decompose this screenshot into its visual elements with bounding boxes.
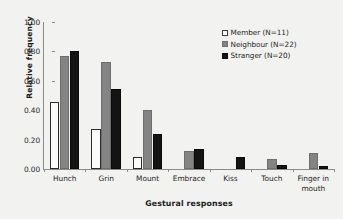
x-axis-tick-mark bbox=[293, 169, 294, 172]
bar-stranger bbox=[277, 165, 287, 169]
bar-neighbour bbox=[184, 151, 194, 169]
legend-label: Member (N=11) bbox=[231, 28, 289, 37]
legend-item: Member (N=11) bbox=[222, 27, 322, 38]
legend-swatch-icon bbox=[222, 41, 228, 47]
bar-stranger bbox=[70, 51, 80, 169]
x-axis-title: Gestural responses bbox=[44, 199, 334, 208]
legend-swatch-icon bbox=[222, 30, 228, 36]
x-axis-tick-mark bbox=[210, 169, 211, 172]
bar-neighbour bbox=[143, 110, 153, 169]
x-axis-tick-label: Kiss bbox=[210, 174, 251, 184]
x-axis-tick-label: Touch bbox=[251, 174, 292, 184]
bar-stranger bbox=[236, 157, 246, 169]
bar-group bbox=[174, 22, 204, 169]
x-axis-tick-mark bbox=[334, 169, 335, 172]
x-axis-tick-mark bbox=[85, 169, 86, 172]
x-axis-tick-label: Mount bbox=[127, 174, 168, 184]
x-axis-tick-label: Embrace bbox=[168, 174, 209, 184]
bar-neighbour bbox=[101, 62, 111, 169]
bar-member bbox=[50, 102, 60, 169]
y-axis-tick-label: 0.80 bbox=[12, 47, 40, 56]
legend-label: Neighbour (N=22) bbox=[231, 40, 297, 49]
x-axis-tick-label: Grin bbox=[85, 174, 126, 184]
bar-stranger bbox=[194, 149, 204, 169]
y-axis-tick-label: 0.40 bbox=[12, 106, 40, 115]
bar-stranger bbox=[319, 166, 329, 169]
y-axis-tick-label: 1.00 bbox=[12, 18, 40, 27]
bar-member bbox=[91, 129, 101, 169]
y-axis-tick-label: 0.60 bbox=[12, 76, 40, 85]
bar-chart-figure: Relative frequency 0.000.200.400.600.801… bbox=[0, 0, 343, 219]
x-axis-tick-mark bbox=[251, 169, 252, 172]
bar-group bbox=[91, 22, 121, 169]
x-axis-tick-mark bbox=[44, 169, 45, 172]
legend-item: Stranger (N=20) bbox=[222, 50, 322, 61]
y-axis-tick-label: 0.20 bbox=[12, 135, 40, 144]
x-axis-tick-label: Hunch bbox=[44, 174, 85, 184]
bar-group bbox=[133, 22, 163, 169]
bar-stranger bbox=[153, 134, 163, 169]
x-axis-tick-mark bbox=[127, 169, 128, 172]
bar-member bbox=[133, 157, 143, 169]
legend-swatch-icon bbox=[222, 53, 228, 59]
bar-stranger bbox=[111, 89, 121, 169]
bar-neighbour bbox=[309, 153, 319, 169]
x-axis-tick-mark bbox=[168, 169, 169, 172]
chart-legend: Member (N=11)Neighbour (N=22)Stranger (N… bbox=[222, 27, 322, 62]
legend-item: Neighbour (N=22) bbox=[222, 39, 322, 50]
bar-neighbour bbox=[60, 56, 70, 169]
bar-group bbox=[50, 22, 80, 169]
y-axis-tick-labels: 0.000.200.400.600.801.00 bbox=[12, 0, 40, 219]
x-axis-tick-label: Finger in mouth bbox=[293, 174, 334, 193]
x-axis-line bbox=[43, 169, 334, 170]
y-axis-tick-label: 0.00 bbox=[12, 165, 40, 174]
legend-label: Stranger (N=20) bbox=[231, 51, 291, 60]
bar-neighbour bbox=[267, 159, 277, 169]
